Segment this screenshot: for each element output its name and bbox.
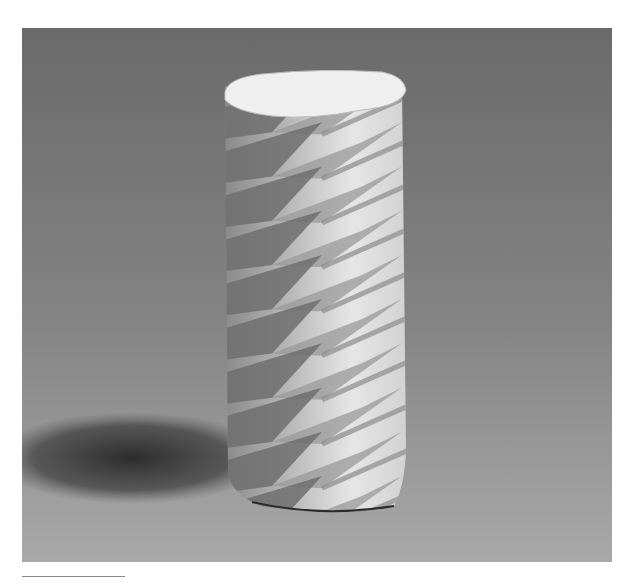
photograph xyxy=(22,28,612,562)
origami-cylinder-photo xyxy=(22,28,612,562)
caption-rule xyxy=(22,576,125,577)
cylinder-body xyxy=(222,78,412,537)
